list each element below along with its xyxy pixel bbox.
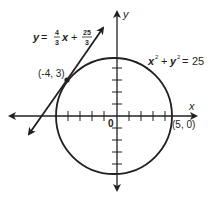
x-axis-label: x (188, 100, 195, 112)
svg-text:y: y (169, 55, 177, 67)
svg-text:2: 2 (177, 54, 181, 60)
svg-text:25: 25 (83, 29, 91, 36)
svg-text:+: + (71, 31, 77, 43)
svg-text:3: 3 (85, 39, 89, 46)
point-label-x-intercept: (5, 0) (172, 119, 195, 130)
svg-text:2: 2 (155, 54, 159, 60)
y-axis (112, 12, 122, 190)
x-axis (10, 111, 196, 121)
point-label-tangent: (-4, 3) (38, 68, 65, 79)
svg-text:25: 25 (192, 55, 204, 67)
line-equation: y = 4 3 x + 25 3 (32, 29, 92, 46)
coordinate-plane: y x 0 (-4, 3) (5, 0) x 2 + y 2 = 25 y = … (0, 0, 221, 201)
svg-text:=: = (41, 31, 47, 43)
origin-label: 0 (108, 118, 114, 129)
svg-text:x: x (61, 31, 69, 43)
tangent-point-dot (64, 77, 69, 82)
svg-text:x: x (147, 55, 155, 67)
svg-text:4: 4 (55, 29, 59, 36)
svg-text:3: 3 (55, 39, 59, 46)
svg-text:y: y (32, 31, 40, 43)
svg-text:+: + (161, 55, 167, 67)
circle-equation: x 2 + y 2 = 25 (147, 54, 204, 67)
y-axis-label: y (122, 8, 130, 20)
svg-text:=: = (182, 55, 188, 67)
